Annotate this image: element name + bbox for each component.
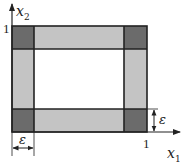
corner-bottom-left [12, 109, 34, 132]
x-axis: 1 x1 [12, 132, 181, 164]
top-strip [34, 26, 124, 49]
epsilon-label-bottom: ε [19, 132, 26, 147]
right-strip [124, 49, 147, 109]
left-strip [12, 49, 34, 109]
x-tick-label: 1 [143, 136, 150, 151]
y-tick-label: 1 [3, 21, 10, 36]
corner-top-right [124, 26, 147, 49]
x-axis-label: x1 [167, 145, 181, 164]
corner-top-left [12, 26, 34, 49]
epsilon-dimension-bottom: ε [12, 132, 34, 156]
diagram-canvas: x2 1 1 x1 ε ε [0, 0, 187, 165]
epsilon-dimension-right: ε [147, 109, 166, 131]
y-axis-label: x2 [16, 3, 30, 22]
epsilon-label-right: ε [159, 112, 166, 127]
corner-bottom-right [124, 109, 147, 132]
bottom-strip [34, 109, 124, 132]
